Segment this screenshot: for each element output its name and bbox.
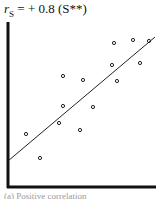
data-point: [147, 39, 150, 42]
data-point: [110, 63, 113, 66]
data-point: [115, 79, 118, 82]
data-point: [24, 132, 27, 135]
data-point: [112, 41, 115, 44]
data-point: [57, 121, 60, 124]
data-point: [138, 61, 141, 64]
data-point: [81, 78, 84, 81]
scatter-plot: [0, 0, 158, 199]
data-point: [61, 74, 64, 77]
figure-caption: (a) Positive correlation: [4, 191, 86, 199]
data-point: [78, 128, 81, 131]
data-point: [131, 38, 134, 41]
data-point: [38, 156, 41, 159]
regression-line: [8, 37, 155, 161]
data-point: [91, 105, 94, 108]
data-point: [61, 104, 64, 107]
